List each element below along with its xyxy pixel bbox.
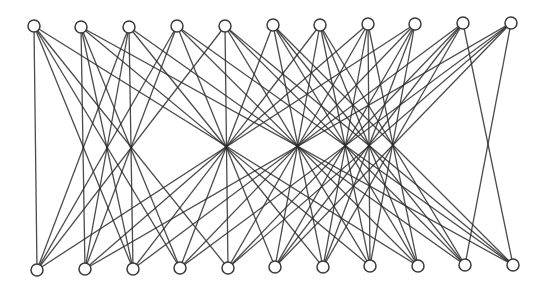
top-node-t2 (123, 21, 135, 33)
edge-layer (34, 23, 513, 270)
bottom-node-b0 (31, 264, 43, 276)
edge-t3-b0 (37, 26, 177, 270)
edge-t2-b0 (37, 27, 129, 270)
bottom-node-b1 (79, 263, 91, 275)
bottom-node-b10 (507, 259, 519, 271)
bottom-node-b2 (127, 263, 139, 275)
bottom-node-b6 (317, 261, 329, 273)
edge-t10-b5 (275, 23, 511, 267)
edge-t9-b5 (275, 23, 463, 267)
edge-t10-b3 (180, 23, 511, 268)
top-node-t1 (75, 21, 87, 33)
bottom-node-b3 (174, 262, 186, 274)
top-node-t5 (267, 19, 279, 31)
top-node-t9 (457, 17, 469, 29)
top-node-t4 (219, 20, 231, 32)
edge-t10-b1 (85, 23, 511, 269)
bottom-node-b5 (269, 261, 281, 273)
bottom-node-b9 (459, 259, 471, 271)
top-node-t7 (362, 18, 374, 30)
top-node-t3 (171, 20, 183, 32)
bottom-node-b4 (222, 262, 234, 274)
top-node-t0 (28, 20, 40, 32)
top-node-t10 (505, 17, 517, 29)
bottom-node-b8 (412, 260, 424, 272)
node-layer (28, 17, 519, 276)
top-node-t8 (409, 18, 421, 30)
edge-t0-b0 (34, 26, 37, 270)
bottom-node-b7 (364, 260, 376, 272)
top-node-t6 (314, 19, 326, 31)
edge-t4-b0 (37, 26, 225, 270)
bipartite-graph-diagram (0, 0, 550, 289)
edge-t10-b9 (465, 23, 511, 265)
